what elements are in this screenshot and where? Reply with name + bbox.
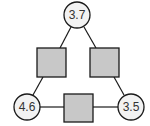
edge-top-left	[60, 27, 71, 48]
circle-bottom-right: 3.5	[118, 94, 144, 120]
edge-top-right	[84, 27, 96, 48]
edge-right-bottomright	[114, 77, 124, 95]
square-left[interactable]	[37, 48, 66, 77]
edge-left-bottomleft	[33, 77, 43, 95]
circle-bottom-right-value: 3.5	[123, 100, 140, 114]
square-right[interactable]	[90, 48, 119, 77]
circle-top: 3.7	[64, 2, 90, 28]
arithmagon-diagram: 3.7 4.6 3.5	[0, 0, 150, 126]
square-bottom[interactable]	[64, 94, 93, 122]
circle-bottom-left: 4.6	[14, 94, 40, 120]
circle-bottom-left-value: 4.6	[19, 100, 36, 114]
circle-top-value: 3.7	[69, 8, 86, 22]
